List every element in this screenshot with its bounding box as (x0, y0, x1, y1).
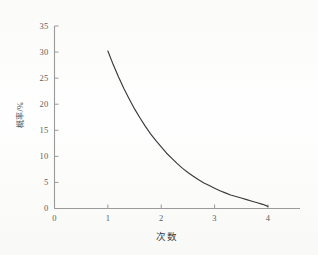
x-tick-label: 2 (154, 213, 168, 223)
y-tick-label: 10 (31, 151, 49, 161)
x-tick-label: 0 (48, 213, 62, 223)
x-tick-label: 1 (101, 213, 115, 223)
data-series-curve (108, 51, 268, 206)
y-tick-label: 25 (31, 73, 49, 83)
y-tick-label: 35 (31, 21, 49, 31)
y-axis-label: 概率/% (14, 88, 25, 142)
y-tick-label: 30 (31, 47, 49, 57)
x-axis-ticks (55, 205, 268, 209)
x-tick-label: 3 (208, 213, 222, 223)
y-tick-label: 20 (31, 99, 49, 109)
y-tick-label: 5 (31, 177, 49, 187)
chart-page: 05101520253035 01234 概率/% 次数 (0, 0, 318, 255)
x-tick-label: 4 (261, 213, 275, 223)
y-axis-ticks (55, 26, 59, 209)
x-axis-label: 次数 (132, 229, 202, 243)
y-tick-label: 0 (31, 203, 49, 213)
y-tick-label: 15 (31, 125, 49, 135)
